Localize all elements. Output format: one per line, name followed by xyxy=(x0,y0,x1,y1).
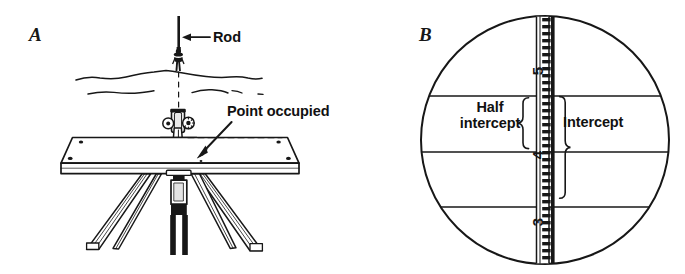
ground-horizon-line xyxy=(76,71,262,81)
rodman-figure xyxy=(172,49,185,71)
plane-table-board xyxy=(61,138,299,174)
figure-linework: 5 4 3 xyxy=(0,0,685,274)
vertical-cross-hair xyxy=(551,16,555,264)
rod-callout-arrow xyxy=(182,33,210,41)
secondary-ground-line xyxy=(88,90,263,95)
half-intercept-label-line1: Half xyxy=(447,100,533,116)
intercept-label: Intercept xyxy=(563,115,623,131)
plumb-bob xyxy=(170,174,188,255)
panel-b-letter: B xyxy=(419,24,432,46)
panel-a-drawing xyxy=(61,16,299,255)
figure-illustration: 5 4 3 A B Rod Point occupied Half i xyxy=(0,0,685,274)
leveling-rod xyxy=(177,16,181,52)
svg-text:3: 3 xyxy=(529,218,546,226)
half-intercept-label-line2: intercept xyxy=(447,116,533,132)
svg-text:4: 4 xyxy=(529,150,546,159)
point-occupied-label: Point occupied xyxy=(227,103,330,119)
rod-label: Rod xyxy=(213,29,241,45)
panel-b-drawing: 5 4 3 xyxy=(421,16,669,264)
panel-a-letter: A xyxy=(29,24,42,46)
svg-text:5: 5 xyxy=(529,67,546,75)
half-intercept-label: Half intercept xyxy=(447,100,533,131)
